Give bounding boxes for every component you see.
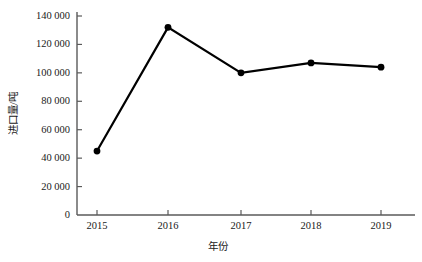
data-series-line <box>97 27 381 151</box>
data-point-marker <box>165 24 172 31</box>
data-point-markers <box>94 24 385 154</box>
data-point-marker <box>94 148 101 155</box>
plot-area <box>0 0 422 262</box>
axis-ticks <box>77 16 381 215</box>
data-point-marker <box>308 60 315 67</box>
line-chart: 进口量/吨 020 00040 00060 00080 000100 00012… <box>0 0 422 262</box>
data-point-marker <box>238 69 245 76</box>
data-point-marker <box>378 64 385 71</box>
axes <box>77 12 415 215</box>
